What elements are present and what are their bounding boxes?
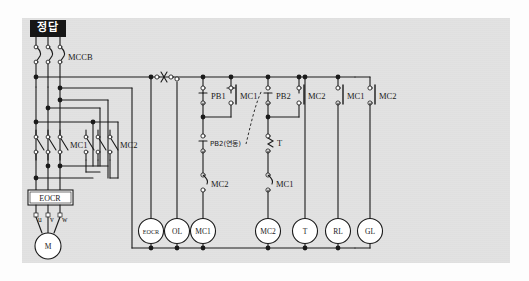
label-mc2-power: MC2 <box>120 140 137 150</box>
label-coil-eocr: EOCR <box>143 228 160 235</box>
mccb-symbol <box>36 32 65 87</box>
label-pb2: PB2 <box>276 91 291 101</box>
mc2-power-contacts <box>86 130 118 160</box>
label-mc2-aux: MC2 <box>308 91 325 101</box>
label-mccb: MCCB <box>68 52 93 62</box>
label-coil-ol: OL <box>172 227 182 236</box>
label-terminal-v: v <box>50 215 54 224</box>
label-mc1-power: MC1 <box>70 140 87 150</box>
label-pb2-interlock: PB2(연동) <box>210 140 241 148</box>
label-coil-rl: RL <box>333 227 343 236</box>
circuit-diagram: MCCB MC1 MC2 EOCR u v w M PB1 MC1 PB2 MC… <box>0 0 529 281</box>
label-terminal-u: u <box>38 215 42 224</box>
label-mc1-interlock: MC1 <box>276 179 293 189</box>
label-terminal-w: w <box>62 215 68 224</box>
label-mc1-rl: MC1 <box>347 91 364 101</box>
label-mc2-interlock: MC2 <box>211 179 228 189</box>
label-coil-mc1: MC1 <box>195 227 211 236</box>
label-pb1: PB1 <box>211 91 226 101</box>
label-coil-mc2: MC2 <box>260 227 276 236</box>
label-t-contact: T <box>277 138 283 148</box>
label-coil-gl: GL <box>365 227 375 236</box>
label-motor: M <box>45 242 52 251</box>
mc1-power-contacts <box>36 130 68 160</box>
diagram-page: 정답 <box>0 0 529 281</box>
label-eocr-box: EOCR <box>39 194 61 203</box>
label-coil-t: T <box>303 227 308 236</box>
label-mc2-gl: MC2 <box>379 91 396 101</box>
label-mc1-aux: MC1 <box>240 91 257 101</box>
answer-badge: 정답 <box>30 20 66 37</box>
